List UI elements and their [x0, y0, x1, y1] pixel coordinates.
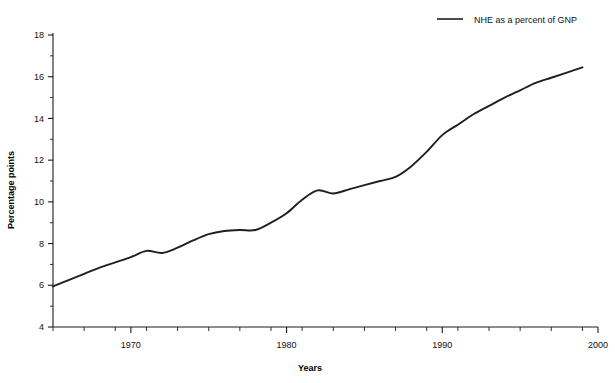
y-tick-label-10: 10 — [34, 197, 44, 207]
y-tick-label-14: 14 — [34, 114, 44, 124]
x-tick-label-1990: 1990 — [432, 340, 452, 350]
y-tick-label-8: 8 — [39, 239, 44, 249]
x-tick-label-1970: 1970 — [121, 340, 141, 350]
y-tick-label-4: 4 — [39, 322, 44, 332]
legend-label-nhe: NHE as a percent of GNP — [474, 15, 577, 25]
chart-background — [0, 0, 615, 383]
x-tick-label-1980: 1980 — [277, 340, 297, 350]
x-tick-label-2000: 2000 — [588, 340, 608, 350]
x-axis-title: Years — [298, 363, 322, 373]
y-axis-title: Percentage points — [6, 151, 16, 229]
y-tick-label-16: 16 — [34, 72, 44, 82]
y-tick-label-18: 18 — [34, 30, 44, 40]
chart-container: NHE as a percent of GNP 4681012141618 19… — [0, 0, 615, 383]
y-tick-label-12: 12 — [34, 155, 44, 165]
line-chart: NHE as a percent of GNP 4681012141618 19… — [0, 0, 615, 383]
y-tick-label-6: 6 — [39, 280, 44, 290]
